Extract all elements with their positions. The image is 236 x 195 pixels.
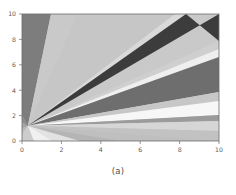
y-tick-label: 8 — [12, 36, 16, 43]
sector-region-plot: 0 2 4 6 8 10 0 2 4 6 8 — [0, 0, 236, 165]
x-axis-tick-labels: 0 2 4 6 8 10 — [20, 146, 223, 153]
x-tick-label: 8 — [178, 146, 182, 153]
x-tick-label: 10 — [215, 146, 223, 153]
x-tick-label: 2 — [59, 146, 63, 153]
y-axis-tick-labels: 0 2 4 6 8 10 — [8, 10, 16, 144]
y-tick-label: 4 — [12, 87, 16, 94]
plot-area: 0 2 4 6 8 10 0 2 4 6 8 — [0, 0, 236, 165]
x-tick-label: 4 — [99, 146, 103, 153]
x-tick-label: 0 — [20, 146, 24, 153]
y-tick-label: 0 — [12, 137, 16, 144]
sector-fan — [22, 14, 219, 141]
x-axis-ticks — [22, 141, 219, 144]
y-tick-label: 6 — [12, 61, 16, 68]
y-tick-label: 10 — [8, 10, 16, 17]
figure-caption: (a) — [0, 166, 236, 176]
y-axis-ticks — [19, 14, 22, 141]
figure-panel: 0 2 4 6 8 10 0 2 4 6 8 — [0, 0, 236, 195]
y-tick-label: 2 — [12, 112, 16, 119]
x-tick-label: 6 — [138, 146, 142, 153]
